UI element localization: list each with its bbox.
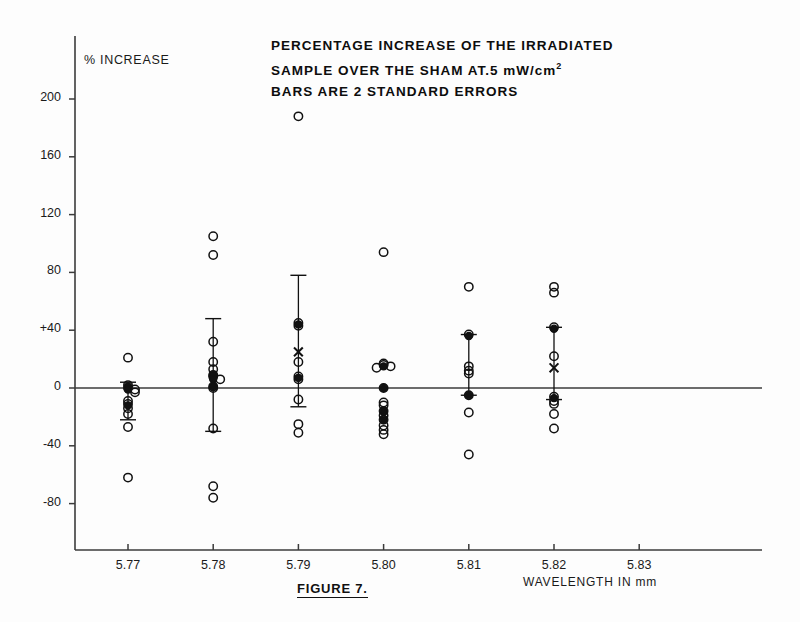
x-tick-label: 5.78 (188, 558, 238, 572)
data-point-filled (380, 384, 387, 391)
series-5-78 (205, 232, 224, 502)
data-point-filled (210, 376, 217, 383)
x-tick-label: 5.83 (614, 558, 664, 572)
data-point-open (550, 424, 558, 432)
y-tick-label: 200 (21, 90, 61, 104)
plot-axes (75, 36, 762, 550)
x-tick-label: 5.80 (359, 558, 409, 572)
y-tick-label: 160 (21, 148, 61, 162)
y-tick-label: -40 (21, 437, 61, 451)
series-5-80 (372, 248, 394, 438)
data-point-open (209, 494, 217, 502)
data-point-filled (380, 416, 387, 423)
data-point-open (465, 283, 473, 291)
data-point-filled (124, 402, 131, 409)
data-point-filled (124, 386, 131, 393)
data-point-open (209, 251, 217, 259)
chart-title-superscript: 2 (556, 61, 562, 71)
data-point-filled (295, 374, 302, 381)
data-point-open (124, 353, 132, 361)
x-axis-label: WAVELENGTH IN mm (523, 575, 657, 589)
data-point-filled (295, 321, 302, 328)
data-point-open (294, 429, 302, 437)
data-point-open (550, 410, 558, 418)
y-tick-label: 80 (21, 263, 61, 277)
x-tick-label: 5.77 (103, 558, 153, 572)
data-point-filled (465, 392, 472, 399)
figure-caption: FIGURE 7. (297, 581, 368, 598)
series-5-81 (461, 283, 477, 459)
chart-title-line-1: PERCENTAGE INCREASE OF THE IRRADIATED (271, 38, 614, 53)
data-series-group (120, 112, 562, 502)
y-tick-label: 0 (21, 379, 61, 393)
data-point-filled (465, 332, 472, 339)
x-tick-label: 5.81 (444, 558, 494, 572)
data-point-open (124, 473, 132, 481)
data-point-open (465, 408, 473, 416)
data-point-open (550, 288, 558, 296)
data-point-open (294, 420, 302, 428)
y-tick-label: +40 (21, 321, 61, 335)
y-tick-label: -80 (21, 495, 61, 509)
y-axis-label: % INCREASE (84, 53, 170, 67)
series-5-82 (546, 283, 562, 433)
x-tick-label: 5.79 (273, 558, 323, 572)
y-tick-label: 120 (21, 206, 61, 220)
data-point-filled (380, 363, 387, 370)
series-5-77 (120, 353, 139, 481)
data-point-filled (550, 325, 557, 332)
data-point-filled (210, 383, 217, 390)
chart-title-line-3: BARS ARE 2 STANDARD ERRORS (271, 84, 518, 99)
data-point-filled (380, 408, 387, 415)
chart-title-line-2: SAMPLE OVER THE SHAM AT.5 mW/cm2 (271, 61, 562, 78)
chart-title-line-2-text: SAMPLE OVER THE SHAM AT.5 mW/cm (271, 63, 556, 78)
axis-ticks (69, 99, 639, 550)
data-point-open (372, 364, 380, 372)
x-tick-label: 5.82 (529, 558, 579, 572)
data-point-filled (550, 395, 557, 402)
data-point-open (379, 248, 387, 256)
data-point-open (209, 482, 217, 490)
data-point-open (294, 112, 302, 120)
data-point-open (465, 450, 473, 458)
data-point-open (209, 232, 217, 240)
figure-container: % INCREASE PERCENTAGE INCREASE OF THE IR… (0, 0, 800, 622)
data-point-open (124, 423, 132, 431)
